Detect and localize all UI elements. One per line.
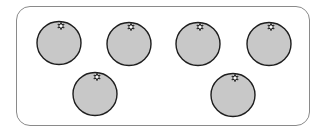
orange-1 (37, 22, 81, 65)
orange-6 (211, 74, 255, 117)
oranges-scene (0, 0, 320, 133)
orange-5 (73, 73, 117, 116)
orange-3 (176, 23, 220, 66)
orange-2 (107, 23, 151, 66)
orange-4 (247, 23, 291, 66)
